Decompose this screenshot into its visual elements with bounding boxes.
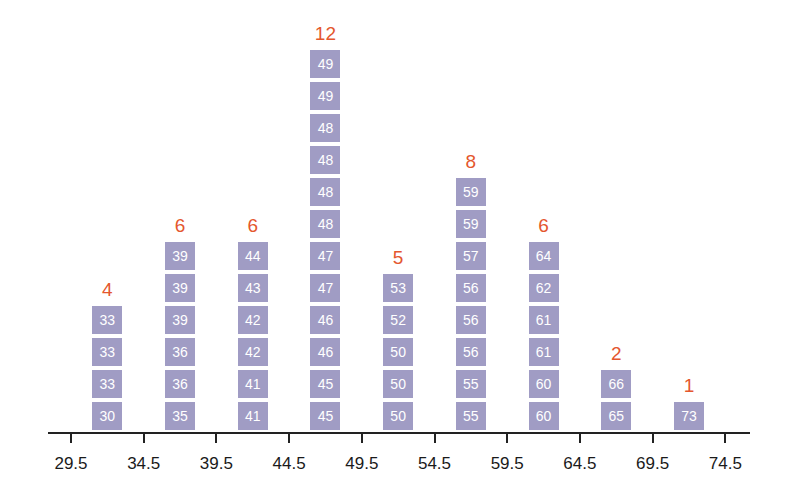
bin-count-label: 8 (451, 151, 491, 173)
histogram-bin: 50505052535 (383, 247, 413, 430)
value-box: 50 (383, 338, 413, 366)
x-tick-label: 69.5 (623, 454, 683, 474)
value-box: 36 (165, 370, 195, 398)
value-box: 50 (383, 402, 413, 430)
bin-count-label: 12 (305, 23, 345, 45)
bin-count-label: 6 (160, 215, 200, 237)
value-box: 66 (601, 370, 631, 398)
x-tick (652, 433, 654, 443)
value-box: 43 (238, 274, 268, 302)
value-box: 46 (310, 338, 340, 366)
bin-count-label: 6 (524, 215, 564, 237)
value-box: 36 (165, 338, 195, 366)
histogram-bin: 65662 (601, 343, 631, 430)
value-box: 50 (383, 370, 413, 398)
histogram-chart: 29.534.539.544.549.554.559.564.569.574.5… (0, 0, 789, 502)
value-box: 57 (456, 242, 486, 270)
value-box: 53 (383, 274, 413, 302)
value-box: 42 (238, 338, 268, 366)
bin-count-label: 1 (669, 375, 709, 397)
bin-count-label: 2 (596, 343, 636, 365)
value-box: 55 (456, 370, 486, 398)
value-box: 64 (529, 242, 559, 270)
x-tick-label: 49.5 (332, 454, 392, 474)
x-tick (434, 433, 436, 443)
x-tick-label: 54.5 (405, 454, 465, 474)
x-tick (70, 433, 72, 443)
histogram-bin: 45454646474748484848494912 (310, 23, 340, 430)
x-tick (143, 433, 145, 443)
value-box: 41 (238, 370, 268, 398)
value-box: 48 (310, 210, 340, 238)
x-tick (506, 433, 508, 443)
value-box: 48 (310, 178, 340, 206)
bin-count-label: 6 (233, 215, 273, 237)
value-box: 61 (529, 338, 559, 366)
x-tick (361, 433, 363, 443)
histogram-bin: 55555656565759598 (456, 151, 486, 430)
value-box: 48 (310, 114, 340, 142)
x-tick-label: 34.5 (114, 454, 174, 474)
value-box: 73 (674, 402, 704, 430)
value-box: 56 (456, 338, 486, 366)
value-box: 44 (238, 242, 268, 270)
value-box: 59 (456, 210, 486, 238)
value-box: 39 (165, 274, 195, 302)
value-box: 55 (456, 402, 486, 430)
value-box: 46 (310, 306, 340, 334)
value-box: 62 (529, 274, 559, 302)
value-box: 45 (310, 370, 340, 398)
value-box: 59 (456, 178, 486, 206)
value-box: 39 (165, 242, 195, 270)
value-box: 35 (165, 402, 195, 430)
value-box: 49 (310, 50, 340, 78)
value-box: 61 (529, 306, 559, 334)
value-box: 33 (92, 306, 122, 334)
x-tick-label: 39.5 (186, 454, 246, 474)
value-box: 45 (310, 402, 340, 430)
value-box: 60 (529, 370, 559, 398)
value-box: 49 (310, 82, 340, 110)
value-box: 47 (310, 242, 340, 270)
bin-count-label: 5 (378, 247, 418, 269)
histogram-bin: 6060616162646 (529, 215, 559, 430)
histogram-bin: 731 (674, 375, 704, 430)
value-box: 56 (456, 306, 486, 334)
value-box: 60 (529, 402, 559, 430)
value-box: 47 (310, 274, 340, 302)
x-tick-label: 59.5 (477, 454, 537, 474)
x-tick (288, 433, 290, 443)
value-box: 52 (383, 306, 413, 334)
histogram-bin: 3536363939396 (165, 215, 195, 430)
value-box: 42 (238, 306, 268, 334)
bin-count-label: 4 (87, 279, 127, 301)
value-box: 48 (310, 146, 340, 174)
x-tick-label: 64.5 (550, 454, 610, 474)
value-box: 65 (601, 402, 631, 430)
x-axis-line (48, 432, 750, 434)
x-tick-label: 44.5 (259, 454, 319, 474)
histogram-bin: 303333334 (92, 279, 122, 430)
value-box: 33 (92, 370, 122, 398)
x-tick (724, 433, 726, 443)
value-box: 39 (165, 306, 195, 334)
x-tick (215, 433, 217, 443)
value-box: 56 (456, 274, 486, 302)
x-tick-label: 74.5 (695, 454, 755, 474)
value-box: 33 (92, 338, 122, 366)
histogram-bin: 4141424243446 (238, 215, 268, 430)
x-tick-label: 29.5 (41, 454, 101, 474)
value-box: 30 (92, 402, 122, 430)
x-tick (579, 433, 581, 443)
value-box: 41 (238, 402, 268, 430)
